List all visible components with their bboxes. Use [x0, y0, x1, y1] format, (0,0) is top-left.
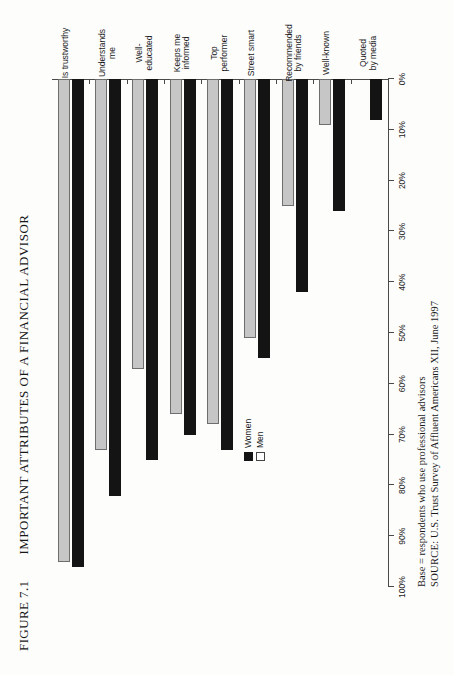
value-tick-label: 100% [397, 576, 407, 598]
category-label: Well-known [322, 31, 332, 75]
bar-men [282, 79, 294, 206]
source-note: SOURCE: U.S. Trust Survey of Affluent Am… [429, 301, 440, 587]
bar-women [258, 79, 270, 358]
bar-women [333, 79, 345, 211]
value-tick-label: 40% [397, 274, 407, 291]
value-tick-label: 60% [397, 375, 407, 392]
value-tick [388, 586, 394, 587]
bar-men [170, 79, 182, 414]
chart-plot-area [52, 79, 388, 587]
category-tick [89, 79, 90, 84]
value-tick-label: 90% [397, 528, 407, 545]
value-tick [388, 281, 394, 282]
bar-women [221, 79, 233, 450]
category-tick [164, 79, 165, 84]
value-tick [388, 180, 394, 181]
category-label: Is trustworthy [61, 28, 71, 79]
bar-men [58, 79, 70, 562]
value-tick-label: 20% [397, 172, 407, 189]
category-label: Top performer [210, 35, 229, 72]
bar-women [72, 79, 84, 567]
bar-men [244, 79, 256, 338]
value-tick [388, 129, 394, 130]
bar-group [317, 79, 347, 587]
value-tick [388, 78, 394, 79]
category-label: Quoted by media [359, 36, 378, 71]
figure-heading: FIGURE 7.1 IMPORTANT ATTRIBUTES OF A FIN… [16, 215, 32, 651]
bar-group [354, 79, 384, 587]
value-tick [388, 383, 394, 384]
bar-group [56, 79, 86, 587]
category-tick [276, 79, 277, 84]
legend-label-women: Women [243, 419, 253, 448]
rotated-figure-wrapper: FIGURE 7.1 IMPORTANT ATTRIBUTES OF A FIN… [0, 0, 454, 675]
legend-swatch-women-icon [244, 452, 253, 461]
category-tick [239, 79, 240, 84]
category-label: Keeps me informed [173, 34, 192, 72]
bar-group [280, 79, 310, 587]
value-axis-line [388, 79, 389, 587]
source-text: U.S. Trust Survey of Affluent Americans … [429, 301, 440, 538]
category-label: Recommended by friends [285, 24, 304, 82]
legend-item-men: Men [255, 419, 265, 461]
category-label: Understands me [98, 29, 117, 77]
figure-container: FIGURE 7.1 IMPORTANT ATTRIBUTES OF A FIN… [0, 0, 454, 675]
bar-women [109, 79, 121, 496]
bar-group [242, 79, 272, 587]
bar-group [130, 79, 160, 587]
value-tick [388, 434, 394, 435]
base-note: Base = respondents who use professional … [416, 301, 427, 587]
bar-men [207, 79, 219, 424]
value-tick-label: 50% [397, 324, 407, 341]
legend-item-women: Women [243, 419, 253, 461]
category-tick [351, 79, 352, 84]
category-tick [127, 79, 128, 84]
value-tick-label: 70% [397, 426, 407, 443]
category-label: Well- educated [135, 36, 154, 71]
bar-group [168, 79, 198, 587]
bar-men [319, 79, 331, 125]
legend-label-men: Men [255, 431, 265, 448]
value-tick [388, 535, 394, 536]
bar-women [146, 79, 158, 460]
value-tick-label: 30% [397, 223, 407, 240]
bar-men [95, 79, 107, 450]
bar-group [93, 79, 123, 587]
bar-women [184, 79, 196, 435]
figure-page: FIGURE 7.1 IMPORTANT ATTRIBUTES OF A FIN… [0, 0, 454, 675]
bar-women [370, 79, 382, 120]
bar-men [132, 79, 144, 369]
bar-group [205, 79, 235, 587]
value-tick [388, 230, 394, 231]
value-tick-label: 80% [397, 477, 407, 494]
value-tick-label: 0% [397, 73, 407, 85]
figure-title: IMPORTANT ATTRIBUTES OF A FINANCIAL ADVI… [16, 215, 32, 555]
figure-notes: Base = respondents who use professional … [416, 301, 440, 587]
value-tick [388, 484, 394, 485]
category-label: Street smart [247, 30, 257, 76]
category-tick [313, 79, 314, 84]
figure-number: FIGURE 7.1 [16, 581, 32, 651]
source-label: SOURCE: [429, 541, 440, 587]
category-tick [201, 79, 202, 84]
value-tick-label: 10% [397, 121, 407, 138]
legend-swatch-men-icon [256, 452, 265, 461]
bar-women [296, 79, 308, 292]
chart-legend: Women Men [243, 419, 265, 461]
value-tick [388, 332, 394, 333]
